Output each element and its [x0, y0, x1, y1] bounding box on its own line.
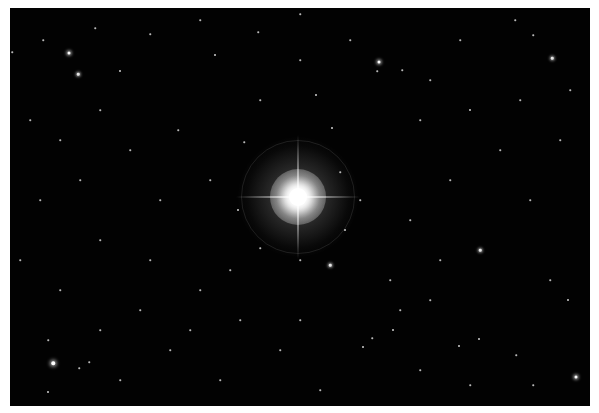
star	[11, 51, 13, 53]
star	[514, 19, 516, 21]
star	[59, 289, 61, 291]
star	[79, 179, 81, 181]
star	[559, 139, 561, 141]
star	[399, 309, 401, 311]
star	[319, 389, 321, 391]
star	[29, 119, 31, 121]
star	[209, 179, 211, 181]
star	[219, 379, 221, 381]
star	[99, 329, 101, 331]
star	[47, 391, 49, 393]
star	[39, 199, 41, 201]
star	[299, 13, 301, 15]
star	[77, 73, 80, 76]
star	[214, 54, 216, 56]
star	[349, 39, 351, 41]
star	[458, 345, 460, 347]
star	[378, 61, 381, 64]
star	[47, 339, 49, 341]
star	[478, 338, 480, 340]
star	[401, 69, 403, 71]
star	[99, 239, 101, 241]
starfield-image	[10, 8, 590, 406]
star	[329, 264, 332, 267]
star	[389, 279, 391, 281]
star	[99, 109, 101, 111]
star	[119, 70, 121, 72]
star	[459, 39, 461, 41]
star	[549, 279, 551, 281]
star	[569, 89, 571, 91]
star	[419, 369, 421, 371]
star	[371, 337, 373, 339]
star	[88, 361, 90, 363]
star	[59, 139, 61, 141]
star	[551, 57, 554, 60]
star	[68, 52, 71, 55]
star	[169, 349, 171, 351]
star	[149, 259, 151, 261]
star	[419, 119, 421, 121]
star	[78, 367, 80, 369]
star	[259, 247, 261, 249]
star	[519, 99, 521, 101]
star	[409, 219, 411, 221]
star	[199, 19, 201, 21]
star	[51, 361, 55, 365]
star	[575, 376, 578, 379]
star	[429, 79, 431, 81]
star	[567, 299, 569, 301]
star	[529, 199, 531, 201]
star	[299, 319, 301, 321]
star	[243, 141, 245, 143]
star	[189, 329, 191, 331]
star	[515, 354, 517, 356]
star	[499, 149, 501, 151]
star	[449, 179, 451, 181]
star	[159, 199, 161, 201]
star	[149, 33, 151, 35]
star	[119, 379, 121, 381]
star	[392, 329, 394, 331]
star	[532, 34, 534, 36]
star	[257, 31, 259, 33]
star	[259, 99, 261, 101]
star	[139, 309, 141, 311]
star	[429, 299, 431, 301]
star	[376, 70, 378, 72]
star	[469, 384, 471, 386]
star	[331, 127, 333, 129]
star	[177, 129, 179, 131]
star	[532, 384, 534, 386]
star	[229, 269, 231, 271]
star	[19, 259, 21, 261]
star	[479, 249, 482, 252]
star	[299, 59, 301, 61]
star	[315, 94, 317, 96]
star	[94, 27, 96, 29]
star	[299, 259, 301, 261]
star	[359, 199, 361, 201]
star	[439, 259, 441, 261]
star	[42, 39, 44, 41]
star	[279, 349, 281, 351]
star-core	[289, 188, 307, 206]
star	[129, 149, 131, 151]
star	[469, 109, 471, 111]
star	[362, 346, 364, 348]
star	[199, 289, 201, 291]
star	[239, 319, 241, 321]
